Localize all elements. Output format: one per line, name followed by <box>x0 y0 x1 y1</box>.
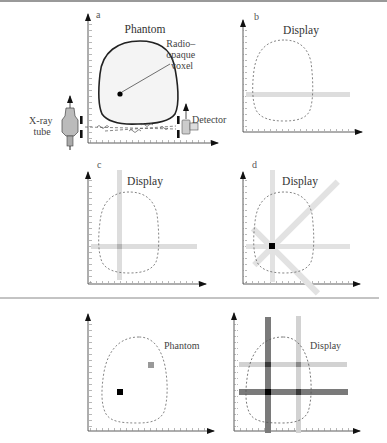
phantom-title: Phantom <box>164 340 200 351</box>
phantom-dashed-outline <box>246 337 311 423</box>
panel-b: b Display <box>243 11 362 132</box>
x-ray-tube-label-line-1: X-ray <box>29 115 52 126</box>
projection-band-vertical <box>117 170 122 280</box>
voxel-label-line-2: opaque <box>166 49 195 60</box>
display-title: Display <box>127 175 163 188</box>
intersection-faint <box>296 362 301 367</box>
panel-c: c Display <box>88 159 206 284</box>
radio-opaque-voxel <box>117 91 122 96</box>
reconstructed-voxel <box>269 243 275 249</box>
panel-d-letter: d <box>252 159 257 170</box>
phantom-title: Phantom <box>125 23 166 35</box>
voxel-dense <box>117 389 123 395</box>
x-ray-tube-icon <box>62 96 83 150</box>
projection-band-horizontal <box>246 92 350 97</box>
band-horizontal-light <box>239 362 347 367</box>
intersection-mixed-2 <box>296 389 301 395</box>
panel-a-letter: a <box>96 9 101 20</box>
svg-text:X-ray tube: X-ray tube <box>29 115 55 137</box>
panel-c-letter: c <box>97 159 102 170</box>
back-projection-bands <box>246 170 350 295</box>
panel-d: d Display <box>243 159 360 295</box>
display-title: Display <box>283 24 319 37</box>
band-horizontal-dark <box>239 389 348 395</box>
voxel-faint <box>148 362 154 368</box>
panel-f: Display <box>234 313 360 433</box>
diagram-canvas: a Phantom Radio– opaque voxel X-ray tube <box>0 0 387 443</box>
detector-label: Detector <box>192 114 227 125</box>
display-title: Display <box>282 175 318 188</box>
overlap-voxel <box>117 244 122 249</box>
band-vertical-dark <box>265 317 271 433</box>
phantom-dashed-outline <box>102 337 167 423</box>
phantom-dashed-outline <box>253 40 313 121</box>
panel-e: Phantom <box>88 314 214 431</box>
panel-a: a Phantom Radio– opaque voxel X-ray tube <box>29 9 227 150</box>
voxel-label-line-3: voxel <box>171 60 193 71</box>
x-ray-tube-label-line-2: tube <box>33 126 51 137</box>
panel-b-letter: b <box>254 11 259 22</box>
phantom-dashed-outline <box>99 192 159 273</box>
projection-band-horizontal <box>91 244 197 249</box>
voxel-label-line-1: Radio– <box>166 38 196 49</box>
display-title: Display <box>310 340 341 351</box>
svg-text:Radio– opaque voxe: Radio– opaque voxel <box>166 38 197 71</box>
intersection-dense <box>265 389 271 395</box>
band-vertical-light <box>296 316 301 433</box>
intersection-mixed-1 <box>265 362 271 367</box>
